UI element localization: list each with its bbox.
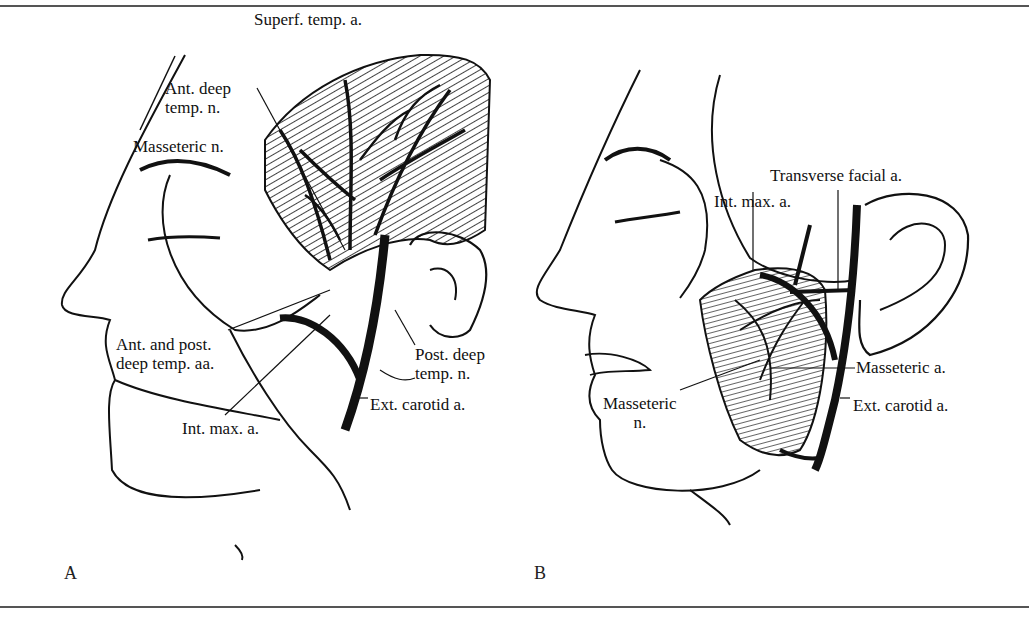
label-line: n. — [603, 413, 677, 432]
label-line: Post. deep — [415, 345, 485, 364]
label-int-max-a-a: Int. max. a. — [182, 419, 259, 438]
label-ext-carotid-a-a: Ext. carotid a. — [370, 395, 465, 414]
label-post-deep-temp-n: Post. deep temp. n. — [415, 345, 485, 383]
label-line: Masseteric — [603, 394, 677, 413]
label-transverse-facial-a: Transverse facial a. — [770, 166, 902, 185]
panel-a-drawing — [62, 55, 490, 560]
panel-letter-b: B — [534, 563, 546, 584]
label-ext-carotid-a-b: Ext. carotid a. — [853, 396, 948, 415]
panel-b-drawing — [537, 70, 968, 525]
anatomical-illustration — [0, 0, 1029, 619]
label-int-max-a-b: Int. max. a. — [714, 192, 791, 211]
label-line: temp. n. — [165, 98, 231, 117]
label-masseteric-n: Masseteric n. — [133, 137, 224, 156]
panel-letter-a: A — [64, 563, 77, 584]
label-ant-post-deep-temp-aa: Ant. and post. deep temp. aa. — [116, 335, 214, 373]
label-masseteric-a: Masseteric a. — [856, 358, 946, 377]
label-line: Ant. and post. — [116, 335, 214, 354]
label-masseteric-n-b: Masseteric n. — [603, 394, 677, 432]
label-superf-temp-a: Superf. temp. a. — [254, 10, 362, 29]
label-line: temp. n. — [415, 364, 485, 383]
label-line: deep temp. aa. — [116, 354, 214, 373]
label-line: Ant. deep — [165, 79, 231, 98]
label-ant-deep-temp-n: Ant. deep temp. n. — [165, 79, 231, 117]
